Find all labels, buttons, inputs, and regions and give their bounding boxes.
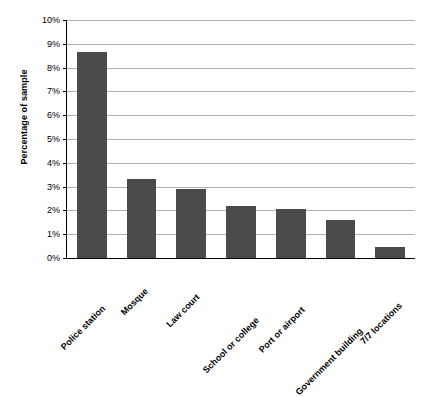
y-axis-title: Percentage of sample — [19, 37, 29, 197]
x-axis-label-slot: Government building — [315, 260, 365, 354]
y-axis-tick-label: 3% — [47, 182, 60, 192]
bar-slot — [266, 20, 316, 258]
plot-area: 0%1%2%3%4%5%6%7%8%9%10% — [66, 20, 415, 259]
y-axis-tick-label: 10% — [42, 15, 60, 25]
x-axis-label-slot: School or college — [215, 260, 265, 354]
bar-slot — [216, 20, 266, 258]
y-axis-tick-label: 6% — [47, 110, 60, 120]
bar-slot — [166, 20, 216, 258]
y-axis-tick-label: 7% — [47, 86, 60, 96]
x-axis-label-slot: Police station — [66, 260, 116, 354]
bar-slot — [365, 20, 415, 258]
x-axis-tick-label-text: Mosque — [118, 286, 149, 317]
bar[interactable] — [276, 209, 306, 258]
bar-slot — [117, 20, 167, 258]
x-axis-tick-label-text: Port or airport — [257, 305, 307, 355]
bar-slot — [316, 20, 366, 258]
y-axis-tick-label: 5% — [47, 134, 60, 144]
y-axis-tick-label: 8% — [47, 63, 60, 73]
y-axis-tick-label: 4% — [47, 158, 60, 168]
bar-slot — [67, 20, 117, 258]
y-axis-tick-label: 9% — [47, 39, 60, 49]
bar[interactable] — [375, 247, 405, 258]
x-axis-label-slot: Law court — [165, 260, 215, 354]
y-axis-tick-label: 2% — [47, 205, 60, 215]
x-axis-label-slot: Mosque — [116, 260, 166, 354]
x-axis-tick-label-text: Police station — [59, 303, 107, 351]
bar[interactable] — [226, 206, 256, 258]
x-axis-tick-label-text: Law court — [165, 292, 202, 329]
y-axis-tick-label: 0% — [47, 253, 60, 263]
bar[interactable] — [176, 189, 206, 258]
bar[interactable] — [127, 179, 157, 258]
bar[interactable] — [326, 220, 356, 258]
bar[interactable] — [77, 52, 107, 258]
x-axis-tick-label-text: 7/7 locations — [359, 301, 405, 347]
bars-layer — [67, 20, 415, 258]
y-axis-tick-label: 1% — [47, 229, 60, 239]
x-axis-labels: Police stationMosqueLaw courtSchool or c… — [66, 260, 414, 354]
y-axis-tick-mark — [63, 258, 67, 259]
x-axis-label-slot: 7/7 locations — [364, 260, 414, 354]
x-axis-label-slot: Port or airport — [265, 260, 315, 354]
